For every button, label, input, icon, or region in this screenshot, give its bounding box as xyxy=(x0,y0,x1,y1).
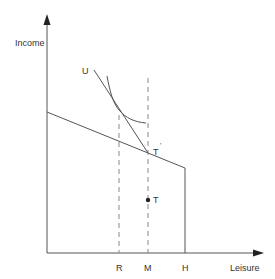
diagram-canvas: Income Leisure R M H U T ' T xyxy=(0,0,275,279)
tick-label-M: M xyxy=(144,263,152,273)
point-label-T: T xyxy=(153,195,159,205)
labor-leisure-diagram: Income Leisure R M H U T ' T xyxy=(0,0,275,279)
y-axis-arrow-icon xyxy=(44,14,51,25)
curve-label-U: U xyxy=(82,66,89,76)
x-axis-label: Leisure xyxy=(230,263,260,273)
point-label-T-prime-mark: ' xyxy=(160,142,161,149)
budget-line xyxy=(47,112,185,168)
tick-label-H: H xyxy=(182,263,189,273)
point-label-T-prime: T xyxy=(153,147,159,157)
tick-label-R: R xyxy=(116,263,123,273)
x-axis-arrow-icon xyxy=(253,250,264,257)
point-T xyxy=(146,198,150,202)
indifference-curve xyxy=(107,76,146,123)
y-axis-label: Income xyxy=(15,38,45,48)
